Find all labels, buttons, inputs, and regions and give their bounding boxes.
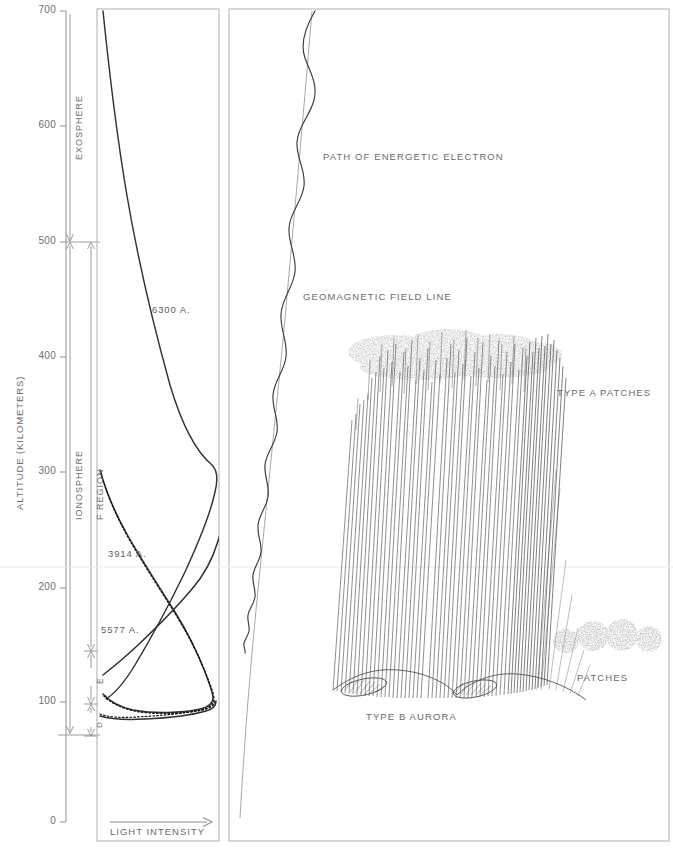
- tick-label-600: 600: [26, 119, 56, 130]
- curtain-fold-b: [428, 338, 523, 698]
- tick-label-400: 400: [26, 350, 56, 361]
- curve-6300: [103, 11, 217, 699]
- patch-4: [636, 626, 662, 652]
- curtain-base-folds: [333, 670, 586, 702]
- altitude-axis: [60, 11, 66, 822]
- patch-1: [553, 629, 579, 653]
- region-label-exosphere: EXOSPHERE: [74, 95, 84, 160]
- emission-curves: [100, 11, 224, 719]
- light-intensity-label: LIGHT INTENSITY: [110, 826, 205, 837]
- figure-canvas: ALTITUDE (KILOMETERS) 700 600 500 400 30…: [0, 0, 673, 851]
- tick-label-100: 100: [26, 695, 56, 706]
- region-label-e: E: [95, 678, 105, 684]
- patch-2: [577, 621, 609, 651]
- curve-label-5577: 5577 A.: [101, 624, 140, 635]
- tick-label-300: 300: [26, 465, 56, 476]
- tick-label-0: 0: [26, 815, 56, 826]
- aurora-curtain: [333, 330, 590, 698]
- curve-label-6300: 6300 A.: [152, 304, 191, 315]
- tick-label-200: 200: [26, 581, 56, 592]
- curtain-fold-a: [333, 340, 440, 698]
- label-geomagnetic-field-line: GEOMAGNETIC FIELD LINE: [303, 291, 452, 302]
- axis-title: ALTITUDE (KILOMETERS): [14, 376, 25, 510]
- tick-label-500: 500: [26, 235, 56, 246]
- curve-label-3914: 3914 A.: [108, 548, 147, 559]
- label-path-of-energetic-electron: PATH OF ENERGETIC ELECTRON: [323, 151, 504, 162]
- curve-5577-dashed: [100, 700, 215, 717]
- patches-group: [553, 619, 662, 653]
- label-patches: PATCHES: [577, 672, 628, 683]
- tick-label-700: 700: [26, 4, 56, 15]
- label-type-a-patches: TYPE A PATCHES: [557, 387, 651, 398]
- label-type-b-aurora: TYPE B AURORA: [366, 711, 457, 722]
- region-label-f-region: F REGION: [95, 468, 105, 520]
- curve-5577: [103, 500, 224, 675]
- path-of-energetic-electron: [244, 11, 315, 653]
- curve-3914-dashed: [101, 473, 214, 714]
- region-label-d: D: [95, 722, 104, 728]
- region-label-ionosphere: IONOSPHERE: [74, 450, 84, 520]
- patch-3: [606, 619, 638, 651]
- curve-3914: [100, 470, 213, 713]
